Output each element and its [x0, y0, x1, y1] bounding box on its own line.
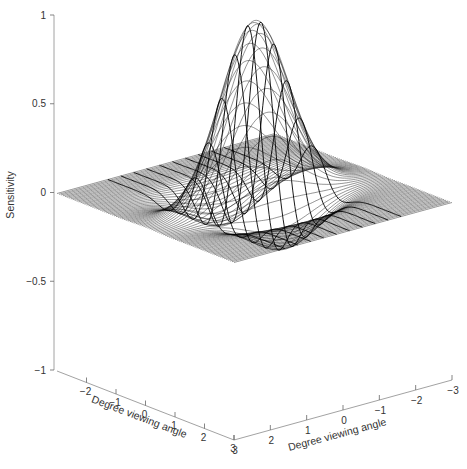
mesh-line	[216, 196, 434, 256]
z-tick-label: 0	[40, 187, 46, 198]
y-axis-title: Degree viewing angle	[287, 415, 388, 453]
mesh-line	[224, 199, 442, 259]
z-axis-ticks: 10.50−0.5−1	[26, 10, 54, 376]
y-tick-label: 2	[269, 435, 275, 446]
y-tick-label: −2	[411, 395, 423, 406]
z-tick-label: 0.5	[32, 98, 46, 109]
z-tick-label: 1	[40, 10, 46, 21]
y-tick-label: 0	[341, 415, 347, 426]
axes: 10.50−0.5−1 −2−10123 3210−1−2−3 Sensitiv…	[4, 10, 459, 457]
mesh-line	[134, 103, 352, 223]
x-tick-label: −2	[80, 386, 92, 397]
x-tick-label: 2	[201, 432, 207, 443]
mesh-line	[77, 141, 295, 201]
surface-mesh	[57, 20, 452, 262]
z-tick-label: −1	[35, 365, 47, 376]
mesh-line	[226, 199, 444, 259]
surface-plot: 10.50−0.5−1 −2−10123 3210−1−2−3 Sensitiv…	[0, 0, 467, 469]
mesh-line	[210, 193, 428, 253]
mesh-line	[218, 196, 436, 256]
y-tick-label: −3	[447, 385, 459, 396]
z-axis-title: Sensitivity	[4, 171, 16, 219]
y-tick-label: −1	[375, 405, 387, 416]
z-tick-label: −0.5	[26, 276, 46, 287]
y-tick-label: 3	[232, 445, 238, 456]
